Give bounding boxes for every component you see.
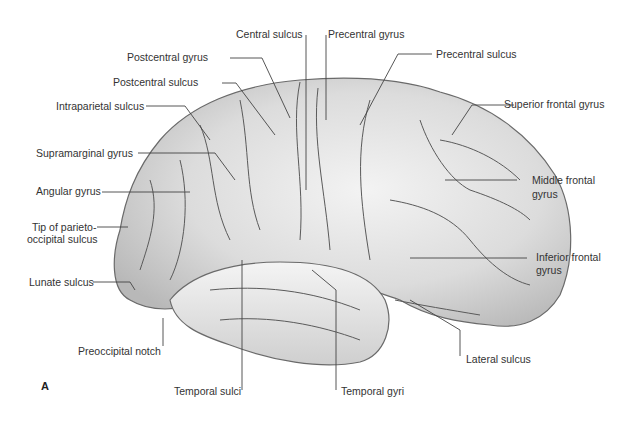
label-temporal-gyri: Temporal gyri: [341, 385, 404, 398]
label-postcentral-sulcus: Postcentral sulcus: [113, 76, 198, 89]
label-central-sulcus: Central sulcus: [236, 28, 303, 41]
label-superior-frontal-gyrus: Superior frontal gyrus: [504, 98, 604, 111]
label-inferior-frontal-gyrus-line1: Inferior frontal: [536, 251, 601, 264]
label-intraparietal-sulcus: Intraparietal sulcus: [56, 100, 144, 113]
label-middle-frontal-gyrus-line1: Middle frontal: [532, 174, 595, 187]
label-precentral-gyrus: Precentral gyrus: [328, 28, 404, 41]
label-inferior-frontal-gyrus-line2: gyrus: [536, 264, 562, 277]
brain-lateral-view-figure: Central sulcus Precentral gyrus Postcent…: [0, 0, 629, 421]
temporal-lobe: [170, 262, 389, 365]
label-temporal-sulci: Temporal sulci: [174, 385, 241, 398]
label-tip-parieto-occipital-line2: occipital sulcus: [27, 233, 98, 246]
label-angular-gyrus: Angular gyrus: [36, 185, 101, 198]
label-middle-frontal-gyrus-line2: gyrus: [532, 188, 558, 201]
panel-letter: A: [41, 380, 49, 392]
label-preoccipital-notch: Preoccipital notch: [78, 345, 161, 358]
label-lateral-sulcus: Lateral sulcus: [466, 353, 531, 366]
label-postcentral-gyrus: Postcentral gyrus: [127, 51, 208, 64]
label-precentral-sulcus: Precentral sulcus: [436, 48, 517, 61]
label-lunate-sulcus: Lunate sulcus: [29, 276, 94, 289]
label-supramarginal-gyrus: Supramarginal gyrus: [36, 147, 133, 160]
